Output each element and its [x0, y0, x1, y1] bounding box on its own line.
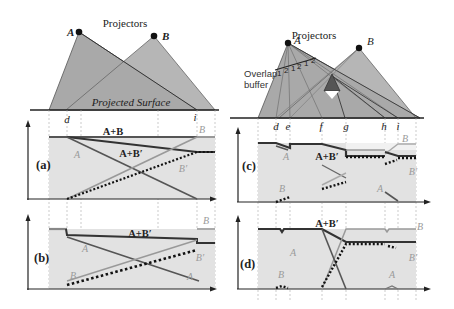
overlap-label-2: buffer	[244, 79, 268, 90]
panel-a-sum-ab: A+B	[103, 126, 124, 137]
panel-b-sum-abp: A+B′	[128, 228, 152, 239]
projector-a-label: A	[66, 26, 74, 38]
panel-b-bp-label: B′	[196, 252, 205, 263]
panel-c-tag: (c)	[242, 159, 256, 173]
mark-d-right: d	[273, 120, 279, 132]
panel-c-a2-label: A	[376, 183, 384, 194]
svg-text:2: 2	[297, 62, 302, 71]
panel-d-y-arrow-icon	[236, 215, 241, 222]
panel-d-b2-label: B	[417, 221, 423, 232]
panel-d-b1-label: B	[278, 269, 284, 280]
panel-b-tag: (b)	[34, 251, 49, 265]
panel-b-y-arrow-icon	[26, 214, 31, 221]
panel-d-a2-label: A	[388, 269, 396, 280]
panel-c-y-arrow-icon	[236, 127, 241, 134]
panel-b: A+B′ A A B B B′ (b)	[26, 214, 218, 292]
panel-b-b2-label: B	[203, 215, 209, 226]
panel-c-x-arrow-icon	[424, 200, 431, 205]
panel-d-sum-abp: A+B′	[315, 218, 339, 229]
panel-d-a1-label: A	[289, 247, 297, 258]
projectors-title: Projectors	[103, 17, 148, 29]
panel-c-b2-label: B	[402, 133, 408, 144]
mark-f: f	[319, 120, 324, 132]
mark-i-right: i	[396, 120, 399, 132]
mark-g: g	[343, 120, 349, 132]
panel-a-tag: (a)	[36, 158, 51, 172]
projector-a-dot-right	[285, 40, 291, 46]
panel-a-bp-label: B′	[179, 163, 188, 174]
right-projector-diagram: 1 2 1 2 1 2 Projectors A B Overlap buffe…	[230, 29, 424, 118]
projector-b-label-right: B	[367, 35, 374, 47]
panel-d-tag: (d)	[240, 257, 255, 271]
svg-text:1: 1	[277, 69, 282, 78]
projector-b-dot-right	[356, 45, 362, 51]
svg-text:2: 2	[284, 66, 289, 75]
mark-h: h	[381, 120, 387, 132]
panel-a-a-label: A	[73, 149, 81, 160]
panel-b-a2-label: A	[186, 271, 194, 282]
panel-a-y-arrow-icon	[26, 120, 31, 127]
panel-d-x-arrow-icon	[424, 287, 431, 292]
panel-a: A+B A+B′ A B B′ (a)	[26, 120, 218, 202]
panel-c-a1-label: A	[282, 151, 290, 162]
svg-text:1: 1	[304, 59, 309, 68]
mark-e: e	[286, 120, 291, 132]
left-projector-diagram: Projectors A B Projected Surface	[30, 17, 219, 110]
projector-a-dot	[76, 29, 83, 36]
panel-d: A+B′ A A B B B′ (d)	[236, 215, 432, 292]
panel-c-sum-abp: A+B′	[315, 151, 339, 162]
panel-d-bp-label: B′	[409, 252, 418, 263]
projected-surface-label: Projected Surface	[91, 96, 171, 108]
figure-canvas: Projectors A B Projected Surface d i A+B…	[0, 0, 454, 309]
panel-a-b-label: B	[199, 124, 205, 135]
panel-c-b1-label: B	[279, 183, 285, 194]
projector-b-dot	[151, 33, 158, 40]
panel-b-b1-label: B	[70, 270, 76, 281]
panel-c-bp-label: B′	[409, 166, 418, 177]
overlap-label-1: Overlap	[244, 68, 277, 79]
svg-text:1: 1	[291, 64, 296, 73]
panel-c: A+B′ A A B B B′ (c)	[236, 127, 432, 205]
right-marks: d e f g h i	[273, 120, 399, 132]
projector-a-label-right: A	[293, 34, 301, 46]
panel-b-a1-label: A	[81, 243, 89, 254]
panel-a-sum-abp: A+B′	[119, 148, 143, 159]
projector-b-label: B	[161, 30, 169, 42]
svg-text:2: 2	[311, 56, 316, 65]
mark-d-left: d	[64, 113, 70, 125]
mark-i-left: i	[193, 111, 196, 123]
